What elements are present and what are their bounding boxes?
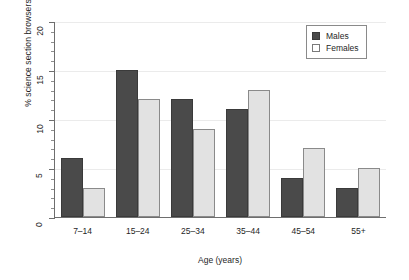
- y-tick-label-wrap: 15: [48, 71, 49, 72]
- bar-males[interactable]: [226, 109, 248, 217]
- bar-males[interactable]: [61, 158, 83, 217]
- y-tick-label: 5: [36, 173, 45, 178]
- bar-males[interactable]: [116, 70, 138, 217]
- y-tick-major: [49, 22, 54, 23]
- bar-females[interactable]: [193, 129, 215, 217]
- y-tick-minor: [51, 189, 54, 190]
- y-tick-label: 15: [36, 75, 45, 84]
- y-tick-major: [49, 169, 54, 170]
- x-tick-label: 55+: [331, 226, 386, 236]
- y-tick-minor: [51, 179, 54, 180]
- y-tick-minor: [51, 51, 54, 52]
- y-tick-minor: [51, 61, 54, 62]
- y-tick-label-wrap: 10: [48, 120, 49, 121]
- bar-males[interactable]: [336, 188, 358, 217]
- bar-females[interactable]: [248, 90, 270, 217]
- bar-females[interactable]: [303, 148, 325, 217]
- y-tick-label-wrap: 0: [48, 218, 49, 219]
- x-tick-label: 35–44: [221, 226, 276, 236]
- y-axis-title: % science section browsers: [23, 0, 33, 143]
- x-axis-line: [54, 217, 386, 218]
- bar-females[interactable]: [83, 188, 105, 217]
- x-tick-label: 25–34: [165, 226, 220, 236]
- bar-males[interactable]: [281, 178, 303, 217]
- legend-item-males: Males: [312, 30, 359, 42]
- y-tick-minor: [51, 32, 54, 33]
- bar-group: [55, 21, 110, 217]
- y-tick-major: [49, 218, 54, 219]
- y-tick-label-wrap: 20: [48, 22, 49, 23]
- legend: Males Females: [306, 25, 367, 59]
- y-tick-minor: [51, 140, 54, 141]
- bar-chart: % science section browsers 05101520 7–14…: [0, 0, 409, 280]
- y-tick-minor: [51, 149, 54, 150]
- y-tick-minor: [51, 110, 54, 111]
- x-tick-label: 45–54: [276, 226, 331, 236]
- x-tick-label: 15–24: [110, 226, 165, 236]
- y-tick-minor: [51, 159, 54, 160]
- y-tick-label: 20: [36, 26, 45, 35]
- y-tick-minor: [51, 100, 54, 101]
- y-tick-minor: [51, 198, 54, 199]
- bar-group: [221, 21, 276, 217]
- y-tick-minor: [51, 81, 54, 82]
- y-tick-label-wrap: 5: [48, 169, 49, 170]
- y-tick-minor: [51, 91, 54, 92]
- x-axis-tick-labels: 7–1415–2425–3435–4445–5455+: [55, 226, 386, 236]
- y-tick-minor: [51, 42, 54, 43]
- bar-females[interactable]: [358, 168, 380, 217]
- legend-label-females: Females: [326, 43, 359, 53]
- y-tick-major: [49, 120, 54, 121]
- x-axis-title: Age (years): [54, 255, 386, 265]
- y-tick-major: [49, 71, 54, 72]
- bar-group: [110, 21, 165, 217]
- x-tick-label: 7–14: [55, 226, 110, 236]
- bar-group: [165, 21, 220, 217]
- legend-label-males: Males: [326, 31, 349, 41]
- y-tick-minor: [51, 208, 54, 209]
- y-tick-label: 0: [36, 222, 45, 227]
- legend-swatch-females-icon: [312, 44, 320, 52]
- legend-item-females: Females: [312, 42, 359, 54]
- y-tick-minor: [51, 130, 54, 131]
- y-tick-label: 10: [36, 124, 45, 133]
- legend-swatch-males-icon: [312, 32, 320, 40]
- bar-males[interactable]: [171, 99, 193, 217]
- bar-females[interactable]: [138, 99, 160, 217]
